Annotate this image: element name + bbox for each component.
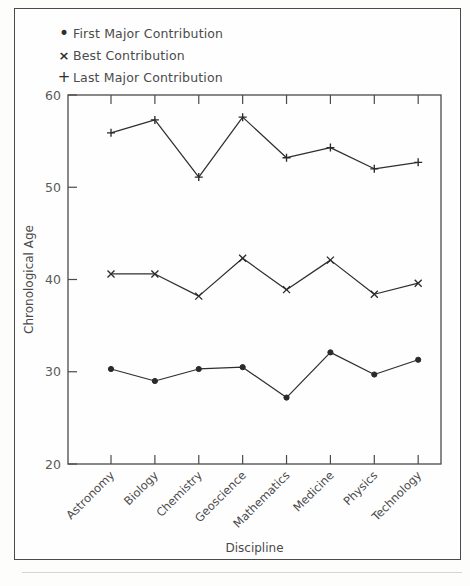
series-dot bbox=[108, 350, 420, 400]
data-point-plus bbox=[370, 165, 378, 173]
figure-page: •First Major Contribution×Best Contribut… bbox=[0, 0, 470, 586]
data-point-dot bbox=[284, 395, 289, 400]
data-point-dot bbox=[240, 365, 245, 370]
data-point-plus bbox=[326, 144, 334, 152]
series-plus bbox=[107, 113, 422, 181]
y-tick-label: 40 bbox=[45, 272, 61, 287]
data-point-cross bbox=[327, 257, 334, 264]
series-line bbox=[111, 258, 418, 296]
y-tick-label: 60 bbox=[45, 88, 61, 103]
data-point-dot bbox=[328, 350, 333, 355]
y-tick-label: 20 bbox=[45, 457, 61, 472]
y-axis-title: Chronological Age bbox=[22, 225, 36, 334]
data-point-cross bbox=[283, 286, 290, 293]
data-point-plus bbox=[107, 129, 115, 137]
data-point-dot bbox=[372, 372, 377, 377]
data-point-plus bbox=[414, 158, 422, 166]
data-point-dot bbox=[108, 366, 113, 371]
data-point-dot bbox=[416, 357, 421, 362]
data-point-dot bbox=[196, 366, 201, 371]
line-chart: 2030405060AstronomyBiologyChemistryGeosc… bbox=[0, 0, 470, 586]
series-line bbox=[111, 117, 418, 177]
x-category-label: Biology bbox=[121, 468, 161, 508]
x-category-label: Astronomy bbox=[63, 468, 117, 522]
x-axis-title: Discipline bbox=[225, 541, 283, 555]
y-tick-label: 50 bbox=[45, 180, 61, 195]
x-category-label: Medicine bbox=[290, 468, 336, 514]
series-cross bbox=[108, 255, 422, 300]
data-point-cross bbox=[195, 293, 202, 300]
y-tick-label: 30 bbox=[45, 364, 61, 379]
data-point-cross bbox=[239, 255, 246, 262]
data-point-dot bbox=[152, 378, 157, 383]
plot-area-frame bbox=[68, 95, 441, 464]
x-category-label: Physics bbox=[340, 468, 380, 508]
